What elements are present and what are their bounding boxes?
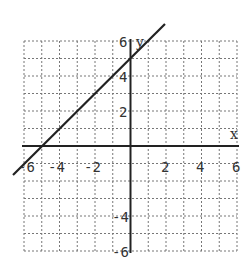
x-tick-label: 6: [232, 159, 240, 175]
x-tick-label: 4: [196, 159, 204, 175]
x-tick-label: -4: [48, 159, 65, 175]
y-axis-label: y: [135, 34, 144, 50]
y-tick-label: 2: [119, 104, 127, 120]
coordinate-plane: y x -6 -4 -2 2 4 6 6 4 2 -4 -6: [0, 0, 251, 270]
x-tick-label: -6: [18, 159, 35, 175]
y-tick-label: 6: [119, 34, 127, 50]
y-tick-label: 4: [119, 69, 127, 85]
y-tick-label: -4: [112, 209, 129, 225]
x-tick-label: -2: [84, 159, 101, 175]
x-axis-label: x: [230, 126, 238, 142]
x-tick-label: 2: [161, 159, 169, 175]
y-tick-label: -6: [112, 244, 129, 260]
